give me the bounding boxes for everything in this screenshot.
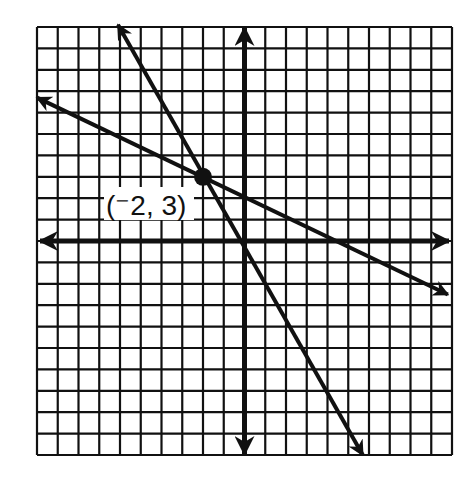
intersection-label: (⁻2, 3) <box>104 187 194 221</box>
intersection-label-text: (⁻2, 3) <box>106 190 186 221</box>
intersection-point <box>194 168 212 186</box>
points <box>194 168 212 186</box>
coordinate-plane: (⁻2, 3) <box>0 0 474 492</box>
